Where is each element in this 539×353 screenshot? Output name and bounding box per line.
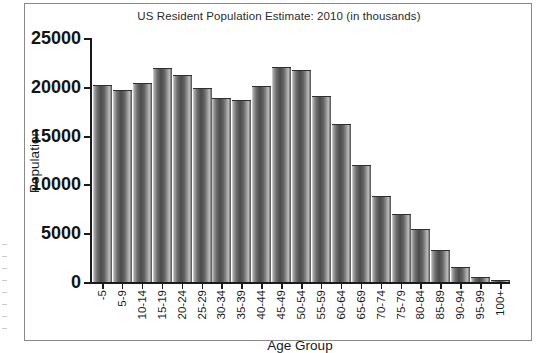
x-axis-line	[90, 282, 510, 284]
bar[interactable]	[113, 90, 132, 282]
bar-slot: -5	[93, 38, 112, 282]
bar-slot: 90-94	[451, 38, 470, 282]
bar-slot: 35-39	[232, 38, 251, 282]
x-tick-label: -5	[96, 290, 108, 300]
y-tick	[84, 233, 91, 235]
bar-slot: 15-19	[153, 38, 172, 282]
bar-slot: 70-74	[372, 38, 391, 282]
x-tick	[321, 282, 323, 289]
x-tick	[122, 282, 124, 289]
bar-slot: 85-89	[431, 38, 450, 282]
x-tick	[261, 282, 263, 289]
bar[interactable]	[133, 83, 152, 282]
bar[interactable]	[372, 196, 391, 282]
x-tick-label: 85-89	[434, 290, 446, 319]
y-tick	[84, 184, 91, 186]
bar[interactable]	[212, 98, 231, 282]
x-tick	[202, 282, 204, 289]
bar-slot: 30-34	[212, 38, 231, 282]
bar-slot: 80-84	[411, 38, 430, 282]
bar-slot: 75-79	[392, 38, 411, 282]
x-tick-label: 10-14	[136, 290, 148, 319]
x-tick	[102, 282, 104, 289]
y-tick-label: 5000	[41, 223, 81, 244]
x-tick-label: 5-9	[116, 290, 128, 307]
bar-slot: 50-54	[292, 38, 311, 282]
bar-series: -55-910-1415-1920-2425-2930-3435-3940-44…	[92, 38, 510, 282]
x-tick	[420, 282, 422, 289]
bar[interactable]	[352, 165, 371, 282]
bar[interactable]	[392, 214, 411, 282]
x-tick-label: 15-19	[156, 290, 168, 319]
x-tick-label: 40-44	[255, 290, 267, 319]
y-tick-label: 0	[71, 272, 81, 293]
x-tick	[162, 282, 164, 289]
x-tick-label: 100+	[494, 290, 506, 316]
bar-slot: 40-44	[252, 38, 271, 282]
y-tick	[84, 87, 91, 89]
bar[interactable]	[451, 267, 470, 282]
y-tick	[84, 38, 91, 40]
chart-title: US Resident Population Estimate: 2010 (i…	[25, 10, 533, 22]
bar[interactable]	[153, 68, 172, 282]
bar-slot: 60-64	[332, 38, 351, 282]
x-tick	[182, 282, 184, 289]
bar-slot: 20-24	[173, 38, 192, 282]
y-tick-label: 15000	[31, 125, 81, 146]
x-tick-label: 90-94	[454, 290, 466, 319]
x-tick-label: 55-59	[315, 290, 327, 319]
bar[interactable]	[411, 229, 430, 282]
x-tick	[281, 282, 283, 289]
bar[interactable]	[312, 96, 331, 282]
bar-slot: 5-9	[113, 38, 132, 282]
x-tick-label: 20-24	[176, 290, 188, 319]
x-tick	[440, 282, 442, 289]
bar[interactable]	[193, 88, 212, 282]
x-tick	[381, 282, 383, 289]
x-tick-label: 60-64	[335, 290, 347, 319]
x-tick-label: 65-69	[355, 290, 367, 319]
x-tick	[301, 282, 303, 289]
x-tick-label: 30-34	[215, 290, 227, 319]
bar[interactable]	[431, 250, 450, 282]
x-tick	[241, 282, 243, 289]
y-tick-label: 10000	[31, 174, 81, 195]
bar-slot: 55-59	[312, 38, 331, 282]
bar[interactable]	[232, 100, 251, 282]
bar[interactable]	[272, 67, 291, 282]
x-tick	[361, 282, 363, 289]
bar[interactable]	[93, 85, 112, 282]
x-tick	[401, 282, 403, 289]
bar[interactable]	[332, 124, 351, 282]
y-tick-label: 20000	[31, 76, 81, 97]
x-tick-label: 45-49	[275, 290, 287, 319]
x-tick-label: 70-74	[375, 290, 387, 319]
bar-slot: 95-99	[471, 38, 490, 282]
bar-slot: 10-14	[133, 38, 152, 282]
y-tick-label: 25000	[31, 28, 81, 49]
x-axis-title: Age Group	[90, 338, 510, 353]
bar[interactable]	[252, 86, 271, 282]
bar-slot: 45-49	[272, 38, 291, 282]
x-tick-label: 95-99	[474, 290, 486, 319]
bar[interactable]	[292, 70, 311, 282]
figure-frame: US Resident Population Estimate: 2010 (i…	[24, 3, 532, 341]
bar-slot: 25-29	[193, 38, 212, 282]
x-tick-label: 75-79	[395, 290, 407, 319]
y-tick	[84, 282, 91, 284]
x-tick-label: 35-39	[235, 290, 247, 319]
x-tick-label: 80-84	[414, 290, 426, 319]
x-tick-label: 25-29	[196, 290, 208, 319]
x-tick	[500, 282, 502, 289]
bar[interactable]	[173, 75, 192, 282]
x-tick	[480, 282, 482, 289]
x-tick	[142, 282, 144, 289]
bar-slot: 100+	[491, 38, 510, 282]
page-edge-artifacts	[0, 0, 10, 352]
bar-slot: 65-69	[352, 38, 371, 282]
x-tick	[221, 282, 223, 289]
x-tick	[341, 282, 343, 289]
y-tick	[84, 136, 91, 138]
plot-area: Population 0500010000150002000025000 -55…	[90, 38, 510, 284]
x-tick	[460, 282, 462, 289]
